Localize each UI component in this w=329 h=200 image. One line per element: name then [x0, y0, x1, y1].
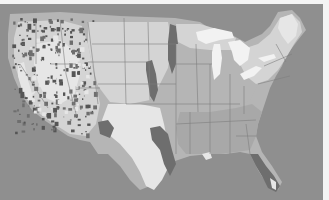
forest-patch	[89, 86, 91, 88]
forest-patch	[27, 114, 30, 118]
barren-patch	[68, 53, 72, 57]
barren-patch	[89, 77, 90, 78]
forest-patch	[57, 19, 59, 22]
forest-patch	[42, 118, 45, 120]
barren-patch	[32, 76, 36, 80]
barren-patch	[40, 43, 43, 46]
forest-patch	[93, 105, 97, 109]
forest-patch	[59, 79, 63, 82]
forest-patch	[22, 39, 23, 41]
forest-patch	[27, 22, 28, 23]
barren-patch	[42, 78, 43, 79]
barren-patch	[46, 73, 48, 75]
forest-patch	[83, 28, 84, 30]
barren-patch	[58, 100, 62, 104]
forest-patch	[33, 47, 35, 49]
barren-patch	[34, 111, 37, 114]
right-border	[323, 0, 329, 200]
forest-patch	[42, 45, 45, 49]
barren-patch	[36, 39, 40, 43]
forest-patch	[70, 41, 73, 45]
forest-patch	[41, 57, 44, 60]
forest-patch	[92, 111, 93, 112]
forest-patch	[22, 103, 25, 107]
barren-patch	[77, 104, 79, 106]
forest-patch	[68, 108, 72, 111]
forest-patch	[19, 35, 20, 36]
forest-patch	[18, 64, 20, 65]
barren-patch	[39, 104, 41, 106]
forest-patch	[85, 39, 87, 41]
barren-patch	[57, 74, 59, 76]
barren-patch	[65, 111, 68, 114]
forest-patch	[20, 92, 24, 98]
forest-patch	[45, 35, 47, 37]
forest-patch	[67, 28, 69, 30]
forest-patch	[29, 57, 32, 61]
forest-patch	[86, 112, 89, 116]
barren-patch	[76, 86, 79, 89]
barren-patch	[53, 76, 56, 79]
forest-patch	[59, 82, 63, 86]
forest-patch	[36, 123, 38, 125]
map-frame	[0, 4, 323, 200]
forest-patch	[70, 31, 72, 34]
forest-patch	[17, 120, 21, 123]
forest-patch	[64, 69, 65, 71]
barren-patch	[69, 61, 71, 63]
forest-patch	[58, 55, 59, 57]
forest-patch	[48, 80, 50, 83]
forest-patch	[67, 30, 68, 31]
barren-patch	[88, 66, 90, 68]
forest-patch	[56, 49, 58, 51]
barren-patch	[84, 90, 88, 94]
forest-patch	[50, 48, 51, 50]
forest-patch	[33, 18, 37, 23]
forest-patch	[15, 63, 17, 65]
forest-patch	[50, 63, 51, 64]
forest-patch	[13, 110, 16, 112]
forest-patch	[43, 92, 46, 95]
barren-patch	[37, 56, 40, 59]
forest-patch	[14, 57, 15, 59]
forest-patch	[34, 74, 35, 75]
barren-patch	[76, 58, 79, 61]
barren-patch	[88, 60, 89, 61]
forest-patch	[66, 68, 68, 72]
forest-patch	[77, 53, 81, 58]
forest-patch	[71, 130, 75, 133]
forest-patch	[85, 116, 86, 118]
forest-patch	[20, 70, 22, 72]
forest-patch	[77, 98, 78, 100]
forest-patch	[70, 36, 73, 38]
forest-patch	[67, 121, 71, 125]
forest-patch	[80, 106, 83, 109]
barren-patch	[39, 60, 41, 62]
forest-patch	[32, 30, 36, 33]
barren-patch	[63, 75, 66, 78]
forest-patch	[51, 103, 53, 105]
forest-patch	[22, 131, 26, 133]
forest-patch	[13, 22, 15, 25]
forest-patch	[70, 119, 72, 120]
forest-patch	[85, 69, 86, 71]
forest-patch	[22, 100, 25, 102]
barren-patch	[45, 62, 48, 65]
forest-patch	[28, 38, 31, 40]
forest-patch	[51, 39, 53, 42]
forest-patch	[55, 52, 56, 54]
forest-patch	[57, 107, 59, 109]
forest-patch	[72, 50, 75, 55]
forest-patch	[12, 44, 16, 48]
barren-patch	[39, 51, 42, 54]
forest-patch	[84, 96, 85, 97]
barren-patch	[32, 92, 34, 94]
forest-patch	[19, 114, 20, 115]
forest-patch	[55, 95, 58, 98]
barren-patch	[55, 40, 59, 44]
forest-patch	[73, 67, 75, 69]
forest-patch	[56, 67, 58, 69]
forest-patch	[29, 50, 33, 56]
forest-patch	[78, 124, 81, 126]
forest-patch	[65, 30, 66, 32]
